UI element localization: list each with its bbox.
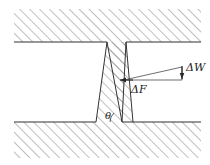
crack-wedge-figure: ΔF ΔW θ: [0, 0, 210, 165]
figure-drawing: [0, 0, 210, 165]
lever-triangle: [124, 67, 182, 80]
upper-block: [14, 9, 201, 42]
crack-wedge: [96, 42, 133, 122]
force-increment-label: ΔF: [131, 84, 147, 95]
crack-angle-label: θ: [105, 111, 111, 121]
lower-block: [14, 122, 201, 158]
work-increment-label: ΔW: [186, 62, 205, 73]
